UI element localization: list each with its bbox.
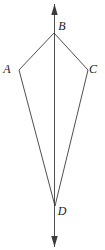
- vertex-label-a: A: [2, 62, 11, 76]
- kite-diagram-svg: A B C D: [0, 0, 105, 250]
- vertex-label-d: D: [57, 204, 67, 218]
- diagram-background: [0, 0, 105, 250]
- geometry-figure-container: A B C D: [0, 0, 105, 250]
- vertex-label-c: C: [89, 62, 98, 76]
- vertex-label-b: B: [58, 19, 66, 33]
